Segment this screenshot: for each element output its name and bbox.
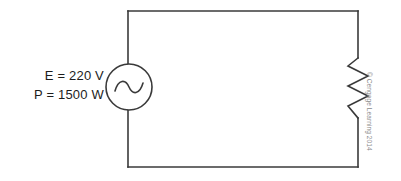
circuit-diagram-figure: E = 220 V P = 1500 W © Cengage Learning …	[0, 0, 401, 181]
voltage-label: E = 220 V	[18, 66, 104, 85]
copyright-credit: © Cengage Learning 2014	[366, 72, 373, 86]
power-label: P = 1500 W	[18, 85, 104, 104]
resistor-zigzag-icon	[348, 58, 368, 118]
source-parameters-label: E = 220 V P = 1500 W	[18, 66, 104, 104]
